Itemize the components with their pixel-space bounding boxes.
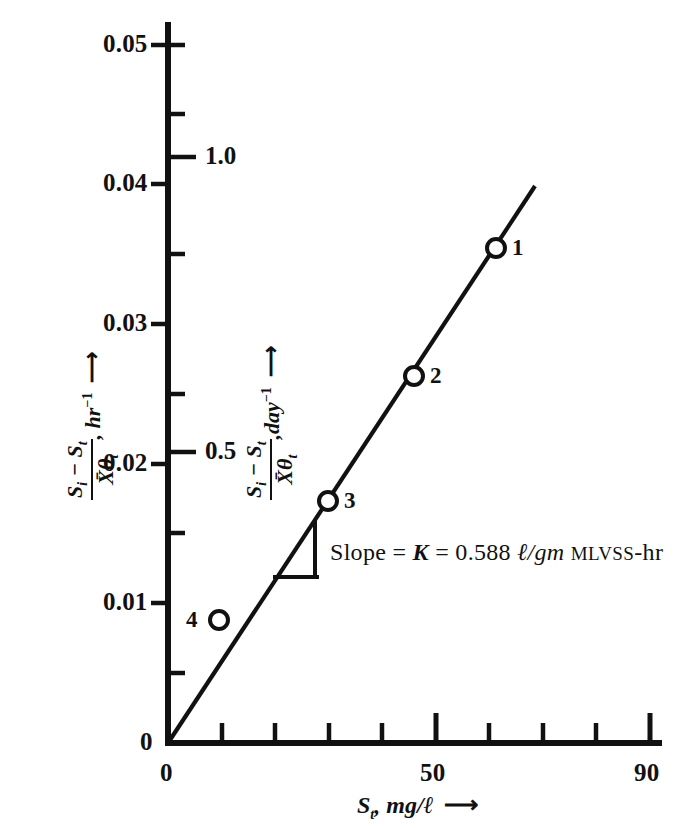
y-axis-left-tick-label-0.01: 0.01 [103,589,148,614]
y-axis-origin-label: 0 [140,729,153,754]
slope-annotation-text: Slope = K = 0.588 ℓ/gm MLVSS-hr [330,540,663,564]
x-axis-caption: St, mg/ℓ⟶ [357,793,478,822]
data-point-label-1: 1 [512,236,524,259]
y-axis-left-caption: Si − St X̄θt , hr−1 ⟶ [62,351,123,500]
y-axis-right-caption-numerator: Si − St [241,439,270,500]
y-axis-left-caption-denominator: X̄θt [91,439,122,500]
y-axis-left-caption-arrow: ⟶ [79,351,104,389]
y-axis-right-tick-label-1.0: 1.0 [205,143,236,168]
y-axis-right-caption-denominator: X̄θt [270,439,301,500]
y-axis-left-tick-label-0.05: 0.05 [103,31,148,56]
data-point-4[interactable] [210,611,228,629]
y-axis-right-caption-arrow: ⟶ [258,345,283,383]
x-axis-tick-label-50: 50 [420,760,445,785]
y-axis-right-caption-fraction: Si − St X̄θt [241,439,302,500]
x-axis-caption-arrow: ⟶ [434,792,478,818]
x-axis-caption-rest: , mg/ [374,792,423,818]
x-axis-caption-var: S [357,792,370,818]
y-axis-right-caption: Si − St X̄θt ,day−1 ⟶ [241,345,302,500]
fit-line [168,186,535,743]
y-axis-right-tick-label-0.5: 0.5 [205,438,236,463]
y-axis-left-tick-label-0.03: 0.03 [103,310,148,335]
y-axis-left-caption-numerator: Si − St [62,439,91,500]
slope-unit-smallcaps: MLVSS [571,543,635,564]
chart-canvas: 0.05 0.04 0.03 0.02 0.01 0 1.0 0.5 0 50 … [0,0,699,829]
y-axis-right-major-ticks [168,157,196,452]
data-point-3[interactable] [319,492,337,510]
data-point-label-4: 4 [186,608,198,631]
slope-symbol: K [413,539,429,565]
x-axis-tick-label-0: 0 [160,760,173,785]
slope-unit-b: -hr [634,539,663,565]
slope-prefix: Slope = [330,539,413,565]
slope-unit-a: ℓ/gm [517,539,571,565]
x-axis-tick-label-90: 90 [634,760,659,785]
data-point-2[interactable] [405,367,423,385]
y-axis-left-caption-unit: , hr−1 [80,393,105,440]
data-point-label-2: 2 [430,364,442,387]
slope-equals: = [429,539,455,565]
data-point-label-3: 3 [344,489,356,512]
y-axis-left-tick-label-0.04: 0.04 [103,170,148,195]
x-axis-caption-ell: ℓ [424,792,434,818]
slope-value: 0.588 [455,539,517,565]
data-point-1[interactable] [487,239,505,257]
y-axis-left-caption-fraction: Si − St X̄θt [62,439,123,500]
y-axis-right-caption-unit: ,day−1 [259,387,284,439]
